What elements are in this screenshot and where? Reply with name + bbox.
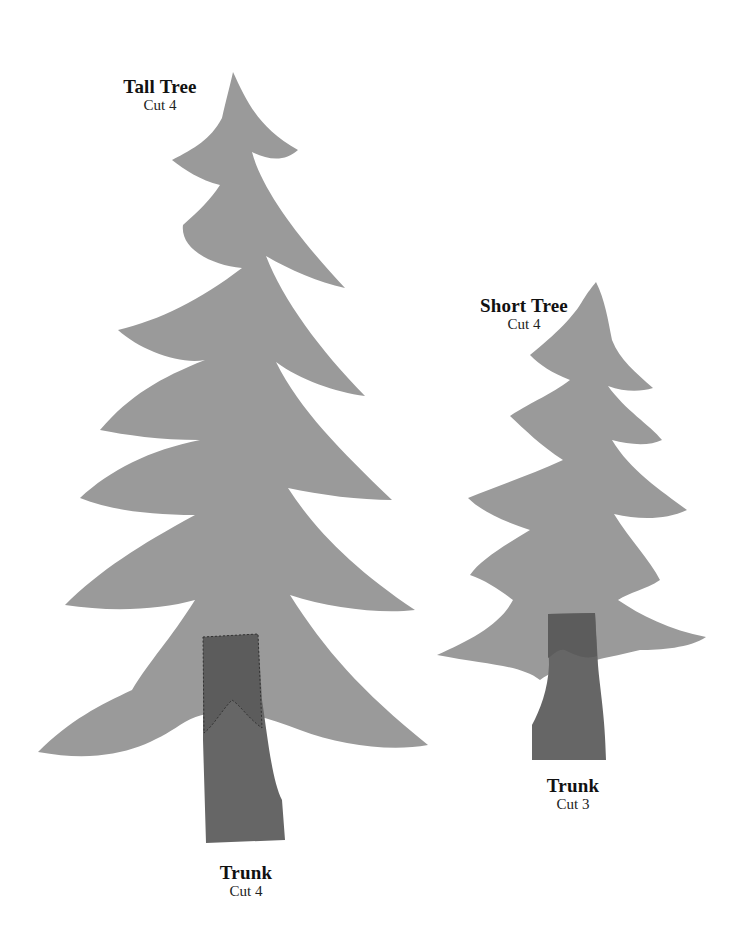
short-trunk-cut-count: Cut 3 [523,797,623,813]
tall-trunk-cut-count: Cut 4 [196,884,296,900]
short-tree-title: Short Tree [468,296,580,316]
tall-tree-cut-count: Cut 4 [110,98,210,114]
tall-trunk-label: Trunk Cut 4 [196,863,296,900]
pattern-artwork [0,0,750,929]
template-page: Tall Tree Cut 4 Short Tree Cut 4 Trunk C… [0,0,750,929]
tall-tree-label: Tall Tree Cut 4 [110,77,210,114]
short-trunk-label: Trunk Cut 3 [523,776,623,813]
short-tree-label: Short Tree Cut 4 [468,296,580,333]
tall-trunk-title: Trunk [196,863,296,883]
tall-tree-title: Tall Tree [110,77,210,97]
short-tree-cut-count: Cut 4 [468,317,580,333]
short-trunk-title: Trunk [523,776,623,796]
short-trunk-overlap [548,613,597,658]
